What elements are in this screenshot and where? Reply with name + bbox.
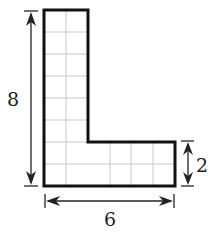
l-shape-diagram: 8 2 6 [0, 0, 217, 234]
grid-lines [44, 10, 175, 186]
foot-height-dimension [181, 141, 194, 186]
height-label: 8 [7, 88, 19, 110]
width-label: 6 [104, 208, 116, 230]
width-dimension [45, 194, 174, 208]
height-dimension [24, 11, 38, 186]
foot-height-label: 2 [196, 154, 208, 176]
